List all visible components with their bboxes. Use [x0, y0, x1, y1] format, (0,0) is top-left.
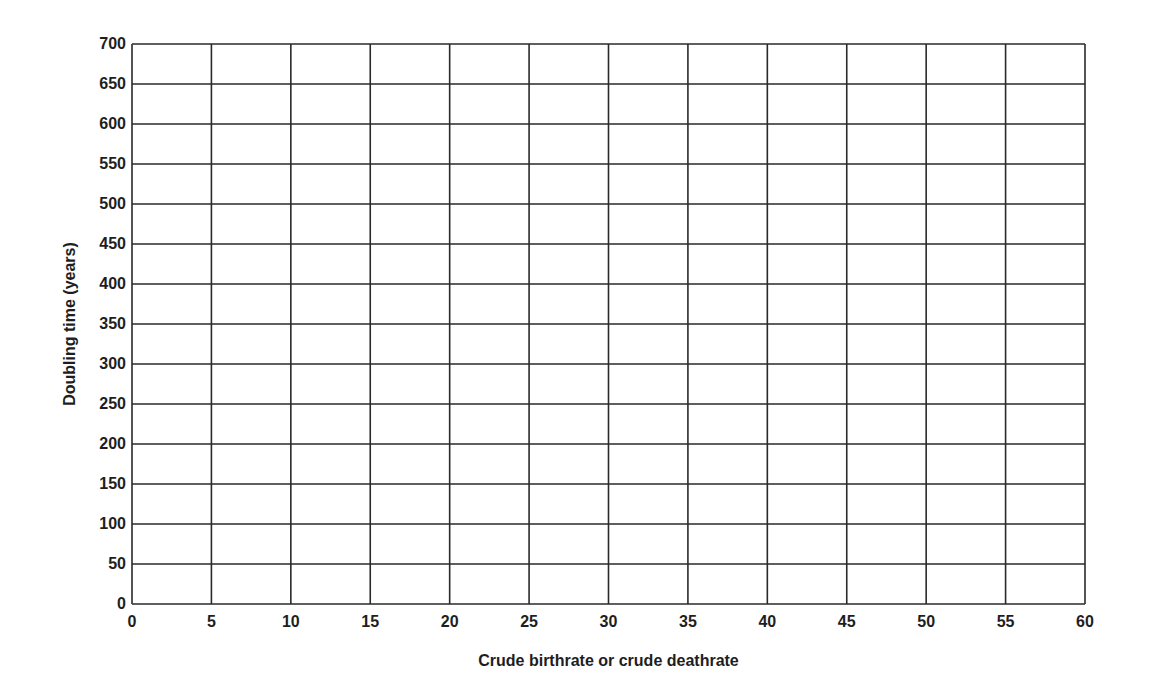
y-tick-label: 650 — [66, 76, 126, 92]
y-tick-label: 150 — [66, 476, 126, 492]
y-tick-label: 50 — [66, 556, 126, 572]
y-tick-label: 100 — [66, 516, 126, 532]
x-tick-label: 60 — [1055, 614, 1115, 630]
x-tick-label: 35 — [658, 614, 718, 630]
x-tick-label: 25 — [499, 614, 559, 630]
y-tick-label: 550 — [66, 156, 126, 172]
y-tick-label: 700 — [66, 36, 126, 52]
y-tick-label: 200 — [66, 436, 126, 452]
x-axis-label: Crude birthrate or crude deathrate — [132, 652, 1085, 670]
y-tick-label: 0 — [66, 596, 126, 612]
x-tick-label: 30 — [579, 614, 639, 630]
x-tick-label: 45 — [817, 614, 877, 630]
plot-area — [132, 44, 1085, 604]
x-tick-label: 0 — [102, 614, 162, 630]
x-tick-label: 10 — [261, 614, 321, 630]
grid-lines — [132, 44, 1085, 604]
x-tick-label: 55 — [976, 614, 1036, 630]
y-tick-label: 600 — [66, 116, 126, 132]
x-tick-label: 20 — [420, 614, 480, 630]
x-tick-label: 15 — [340, 614, 400, 630]
x-tick-label: 40 — [737, 614, 797, 630]
y-axis-label: Doubling time (years) — [61, 242, 79, 406]
y-tick-label: 500 — [66, 196, 126, 212]
x-tick-label: 5 — [181, 614, 241, 630]
x-tick-label: 50 — [896, 614, 956, 630]
